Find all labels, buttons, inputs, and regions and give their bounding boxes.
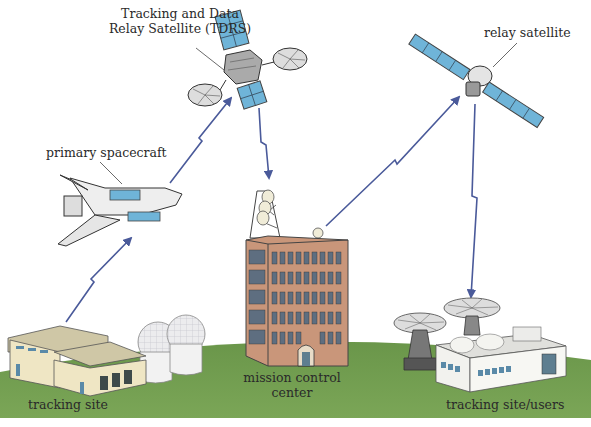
mission-control-label-line1: mission control: [232, 370, 352, 385]
tdrs-label: Tracking and Data Relay Satellite (TDRS): [95, 6, 265, 36]
tracking-site-label: tracking site: [28, 397, 108, 412]
mission-control-label-line2: center: [232, 385, 352, 400]
relay-satellite-icon: [409, 34, 544, 127]
link-relay-to-users: [471, 104, 477, 297]
diagram-canvas: [0, 0, 591, 427]
link-shuttle-to-tdrs: [170, 98, 231, 183]
link-tdrs-to-mission: [259, 108, 269, 178]
primary-spacecraft-label: primary spacecraft: [46, 145, 167, 160]
mission-control-label: mission control center: [232, 370, 352, 400]
office-building-icon: [246, 190, 348, 366]
relay-satellite-label: relay satellite: [484, 25, 571, 40]
tdrs-label-line2: Relay Satellite (TDRS): [95, 21, 265, 36]
tracking-site-users-label: tracking site/users: [446, 397, 564, 412]
tdrs-label-line1: Tracking and Data: [95, 6, 265, 21]
link-site-to-shuttle: [66, 238, 131, 322]
space-shuttle-icon: [58, 162, 182, 246]
link-mission-to-relay: [326, 97, 459, 226]
